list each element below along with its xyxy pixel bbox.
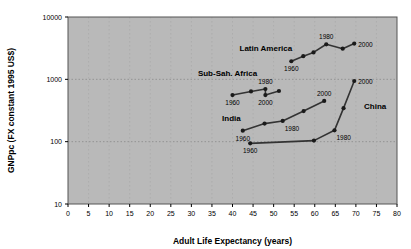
x-axis-tick-label: 40 [229, 210, 237, 217]
data-point-marker [248, 141, 252, 145]
data-point-marker [301, 54, 305, 58]
data-point-marker [341, 47, 345, 51]
data-point-marker [230, 93, 234, 97]
year-annotation: 1960 [236, 135, 251, 142]
data-point-marker [277, 89, 281, 93]
year-annotation: 1980 [319, 33, 334, 40]
data-point-marker [263, 93, 267, 97]
x-axis-tick-label: 0 [66, 210, 70, 217]
x-axis-tick-label: 50 [270, 210, 278, 217]
y-axis-tick-label: 10 [54, 201, 62, 208]
data-point-marker [352, 41, 356, 45]
x-axis-tick-label: 45 [249, 210, 257, 217]
x-axis-tick-label: 35 [208, 210, 216, 217]
year-annotation: 1980 [285, 125, 300, 132]
data-point-marker [352, 79, 356, 83]
x-axis-tick-label: 65 [331, 210, 339, 217]
data-point-marker [249, 89, 253, 93]
x-axis-tick-label: 70 [352, 210, 360, 217]
data-point-marker [263, 87, 267, 91]
x-axis-tick-label: 80 [393, 210, 401, 217]
y-axis-tick-label: 100 [50, 138, 62, 145]
x-axis-tick-label: 20 [146, 210, 154, 217]
year-annotation: 2000 [317, 90, 332, 97]
x-axis-tick-label: 60 [311, 210, 319, 217]
year-annotation: 2000 [258, 99, 273, 106]
chart-container: 1010010001000005101520253035404550556065… [0, 0, 411, 249]
data-point-marker [341, 106, 345, 110]
data-point-marker [289, 59, 293, 63]
data-point-marker [311, 50, 315, 54]
y-axis-tick-label: 10000 [43, 14, 63, 21]
year-annotation: 1960 [243, 147, 258, 154]
data-point-marker [322, 99, 326, 103]
data-point-marker [324, 42, 328, 46]
year-annotation: 2000 [358, 41, 373, 48]
series-label-china: China [364, 102, 387, 111]
series-label-india: India [222, 114, 241, 123]
year-annotation: 1980 [336, 134, 351, 141]
x-axis-tick-label: 55 [290, 210, 298, 217]
series-label-latin-america: Latin America [240, 44, 293, 53]
y-axis-title: GNPpc (FX constant 1995 US$) [6, 48, 16, 173]
x-axis-tick-label: 30 [187, 210, 195, 217]
x-axis-title: Adult Life Expectancy (years) [173, 236, 292, 246]
data-point-marker [302, 109, 306, 113]
x-axis-tick-label: 25 [167, 210, 175, 217]
data-point-marker [281, 119, 285, 123]
series-label-sub-sah-africa: Sub-Sah. Africa [198, 69, 258, 78]
x-axis-tick-label: 75 [373, 210, 381, 217]
x-axis-tick-label: 5 [87, 210, 91, 217]
year-annotation: 2000 [358, 78, 373, 85]
y-axis-tick-label: 1000 [46, 76, 62, 83]
data-point-marker [332, 128, 336, 132]
x-axis-tick-label: 10 [105, 210, 113, 217]
line-chart: 1010010001000005101520253035404550556065… [0, 0, 411, 249]
data-point-marker [312, 139, 316, 143]
data-point-marker [262, 121, 266, 125]
data-point-marker [241, 129, 245, 133]
year-annotation: 1960 [225, 99, 240, 106]
x-axis-tick-label: 15 [126, 210, 134, 217]
year-annotation: 1980 [258, 78, 273, 85]
year-annotation: 1960 [284, 65, 299, 72]
